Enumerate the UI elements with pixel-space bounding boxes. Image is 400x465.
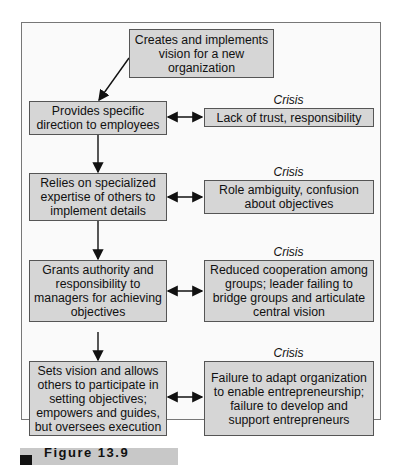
crisis-box-1: Lack of trust, responsibility: [204, 108, 374, 127]
crisis-label-4: Crisis: [204, 346, 373, 360]
stage-box-2: Relies on specialized expertise of other…: [29, 173, 167, 221]
figure-caption: Figure 13.9: [44, 445, 129, 460]
caption-marker: [20, 455, 32, 465]
crisis-label-2: Crisis: [204, 165, 373, 179]
crisis-label-3: Crisis: [204, 245, 373, 259]
crisis-box-3: Reduced cooperation among groups; leader…: [204, 260, 374, 322]
crisis-box-2: Role ambiguity, confusion about objectiv…: [204, 180, 374, 214]
stage-box-1: Provides specific direction to employees: [29, 101, 167, 135]
stage-box-4: Sets vision and allows others to partici…: [29, 361, 167, 436]
crisis-box-4: Failure to adapt organization to enable …: [204, 361, 374, 436]
crisis-label-1: Crisis: [204, 93, 373, 107]
top-box: Creates and implements vision for a new …: [129, 29, 274, 78]
stage-box-3: Grants authority and responsibility to m…: [29, 260, 167, 322]
